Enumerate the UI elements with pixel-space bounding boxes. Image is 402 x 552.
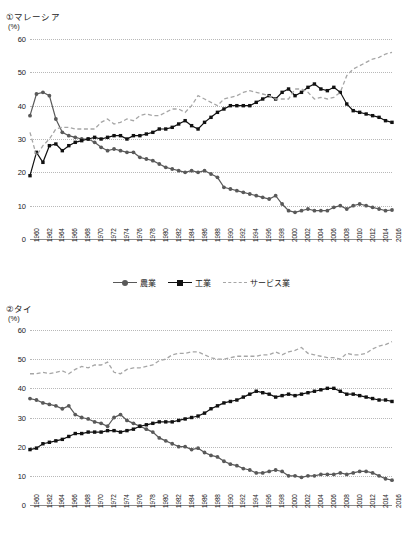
legend-swatch-services-icon [223,279,247,287]
page-title-malaysia: ①マレーシア [6,10,60,22]
data-point-agriculture [300,475,304,479]
data-point-agriculture [293,474,297,478]
y-axis-tick-label: 30 [4,413,26,422]
data-point-industry [306,86,309,89]
data-point-industry [145,423,148,426]
data-point-agriculture [222,185,226,189]
data-point-agriculture [377,474,381,478]
data-point-industry [319,87,322,90]
legend-item-industry: 工業 [168,277,211,288]
data-point-industry [358,111,361,114]
data-point-agriculture [60,130,64,134]
data-point-agriculture [177,169,181,173]
data-point-agriculture [364,470,368,474]
data-point-agriculture [300,209,304,213]
data-point-industry [274,395,277,398]
data-point-agriculture [267,470,271,474]
data-point-agriculture [132,421,136,425]
data-point-industry [190,124,193,127]
data-point-industry [326,89,329,92]
data-point-industry [112,134,115,137]
data-point-industry [99,137,102,140]
series-line-agriculture [30,92,392,212]
data-point-industry [280,394,283,397]
data-point-agriculture [384,477,388,481]
data-point-agriculture [325,209,329,213]
data-point-agriculture [60,407,64,411]
data-point-industry [41,161,44,164]
y-axis-tick-label: 50 [4,355,26,364]
data-point-industry [80,139,83,142]
legend-item-agriculture: 農業 [113,277,156,288]
data-point-agriculture [222,459,226,463]
data-point-agriculture [106,424,110,428]
series-line-agriculture [30,399,392,481]
data-point-industry [313,390,316,393]
data-point-industry [229,400,232,403]
series-line-services [30,342,392,374]
data-point-industry [74,141,77,144]
data-point-industry [119,430,122,433]
data-point-industry [255,390,258,393]
data-point-agriculture [306,474,310,478]
data-point-agriculture [93,420,97,424]
data-point-industry [222,107,225,110]
data-point-industry [287,392,290,395]
data-point-industry [306,391,309,394]
data-point-industry [235,398,238,401]
y-axis-tick-label: 50 [4,68,26,77]
legend-label-agriculture: 農業 [140,277,156,288]
data-point-industry [339,390,342,393]
data-point-industry [138,425,141,428]
data-point-industry [235,104,238,107]
data-point-industry [332,86,335,89]
series-layer [30,39,392,239]
y-axis-tick-label: 0 [4,235,26,244]
data-point-industry [171,126,174,129]
data-point-agriculture [287,209,291,213]
y-axis-tick-label: 10 [4,201,26,210]
chart-panel-malaysia: ①マレーシア (%) 01020304050601960196219641966… [0,0,402,298]
series-layer [30,330,392,505]
data-point-industry [119,134,122,137]
data-point-agriculture [80,416,84,420]
data-point-agriculture [106,149,110,153]
data-point-agriculture [151,430,155,434]
legend-swatch-agriculture-icon [113,279,137,287]
data-point-agriculture [99,145,103,149]
data-point-agriculture [157,436,161,440]
data-point-agriculture [261,195,265,199]
data-point-agriculture [73,135,77,139]
data-point-industry [216,404,219,407]
data-point-industry [209,407,212,410]
data-point-industry [106,136,109,139]
y-axis-tick-label: 60 [4,35,26,44]
data-point-agriculture [332,472,336,476]
data-point-industry [345,392,348,395]
data-point-industry [80,432,83,435]
data-point-industry [171,420,174,423]
data-point-agriculture [119,413,123,417]
data-point-agriculture [41,401,45,405]
data-point-agriculture [86,417,90,421]
data-point-agriculture [235,189,239,193]
data-point-agriculture [47,402,51,406]
data-point-industry [261,97,264,100]
data-point-agriculture [228,187,232,191]
data-point-industry [345,102,348,105]
data-point-industry [255,101,258,104]
data-point-industry [183,119,186,122]
data-point-industry [48,441,51,444]
data-point-industry [151,131,154,134]
data-point-agriculture [138,155,142,159]
data-point-agriculture [248,192,252,196]
data-point-industry [326,387,329,390]
data-point-agriculture [338,204,342,208]
data-point-industry [248,392,251,395]
data-point-industry [158,127,161,130]
data-point-industry [61,149,64,152]
data-point-agriculture [209,454,213,458]
data-point-agriculture [151,159,155,163]
data-point-agriculture [28,114,32,118]
data-point-agriculture [196,170,200,174]
